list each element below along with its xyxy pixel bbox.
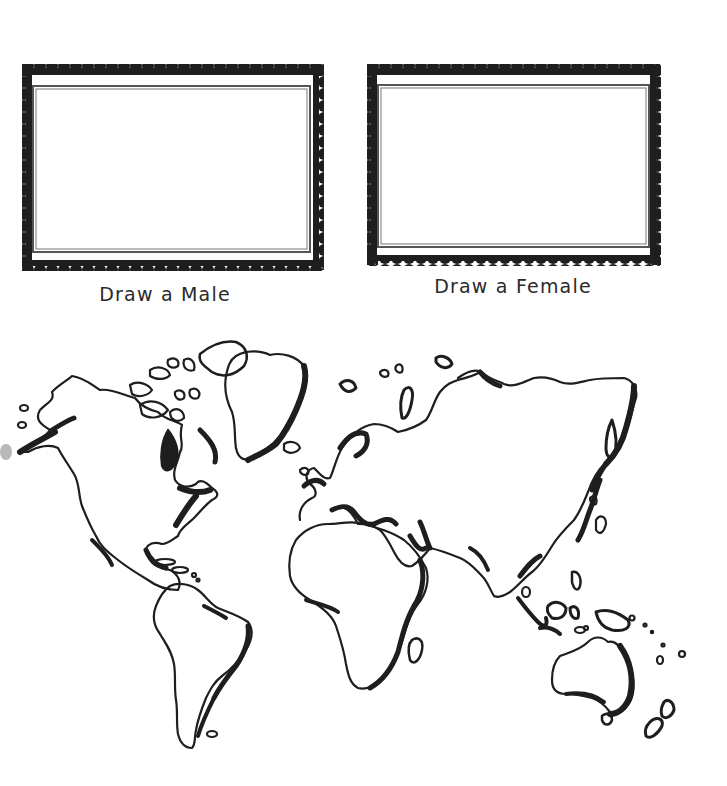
draw-male-frame [18,60,328,275]
europe [300,356,480,524]
asia [344,370,636,597]
south-america [154,584,252,748]
male-drawing-area[interactable] [38,91,306,247]
draw-male-label: Draw a Male [99,283,231,305]
north-america [18,376,217,590]
new-zealand [645,644,685,738]
world-map [0,330,727,770]
draw-female-label: Draw a Female [434,275,592,297]
southeast-asia-islands [518,572,653,634]
female-drawing-area[interactable] [383,90,645,242]
scan-smudge [0,444,12,460]
draw-female-frame [363,60,665,270]
australia [552,638,634,725]
africa [289,522,427,688]
greenland [225,351,305,460]
